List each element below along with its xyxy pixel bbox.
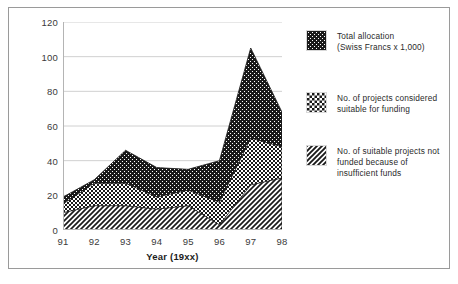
y-tick-label: 40 [47, 155, 58, 166]
legend-label-line: (Swiss Francs x 1,000) [337, 42, 425, 53]
legend-item-total-allocation: Total allocation(Swiss Francs x 1,000) [306, 30, 425, 53]
legend-label-line: suitable for funding [337, 104, 437, 115]
y-tick-label: 20 [47, 190, 58, 201]
legend-item-suitable-not-funded: No. of suitable projects notfunded becau… [306, 145, 439, 180]
legend-label-line: No. of projects considered [337, 93, 437, 104]
x-tick-label: 92 [89, 236, 100, 247]
legend-label-suitable-not-funded: No. of suitable projects notfunded becau… [337, 145, 439, 180]
legend-label-projects-considered-suitable: No. of projects consideredsuitable for f… [337, 92, 437, 115]
chart-figure: 020406080100120 [0, 0, 458, 284]
legend-label-line: No. of suitable projects not [337, 146, 439, 157]
legend-label-line: insufficient funds [337, 168, 439, 179]
legend-swatch-suitable-not-funded [306, 145, 327, 166]
legend-label-line: Total allocation [337, 31, 425, 42]
y-tick-label: 60 [47, 121, 58, 132]
x-axis-tick-labels: 9192939495969798 [63, 236, 282, 250]
plot-area [63, 22, 282, 230]
x-tick-label: 94 [151, 236, 162, 247]
x-tick-label: 96 [214, 236, 225, 247]
y-tick-label: 100 [42, 51, 58, 62]
y-tick-label: 0 [53, 225, 58, 236]
x-tick-label: 97 [245, 236, 256, 247]
area-series-group [63, 48, 282, 230]
legend-swatch-projects-considered-suitable [306, 92, 327, 113]
y-tick-label: 80 [47, 86, 58, 97]
x-tick-label: 93 [120, 236, 131, 247]
area-chart-svg [63, 22, 282, 230]
x-tick-label: 95 [183, 236, 194, 247]
legend-swatch-total-allocation [306, 30, 327, 51]
legend-item-projects-considered-suitable: No. of projects consideredsuitable for f… [306, 92, 437, 115]
legend-label-line: funded because of [337, 157, 439, 168]
y-axis-tick-labels: 020406080100120 [24, 22, 58, 230]
x-tick-label: 91 [58, 236, 69, 247]
y-tick-label: 120 [42, 17, 58, 28]
legend-label-total-allocation: Total allocation(Swiss Francs x 1,000) [337, 30, 425, 53]
x-axis-title: Year (19xx) [63, 251, 282, 262]
x-tick-label: 98 [277, 236, 288, 247]
